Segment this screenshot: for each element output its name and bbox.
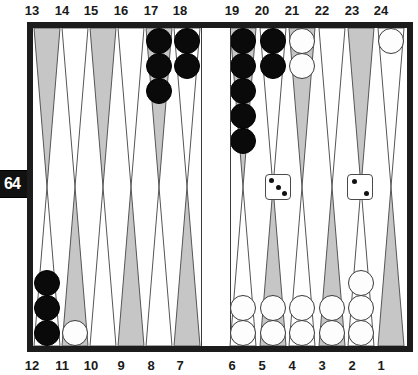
point-22[interactable] <box>318 28 346 187</box>
point-14[interactable] <box>61 28 89 187</box>
point-8[interactable] <box>145 187 173 346</box>
checker-black-point-17[interactable] <box>146 28 172 54</box>
die-pip <box>282 191 287 196</box>
point-label-22: 22 <box>310 3 334 18</box>
checker-black-point-19[interactable] <box>230 53 256 79</box>
checker-black-point-19[interactable] <box>230 103 256 129</box>
point-label-10: 10 <box>79 358 103 373</box>
point-label-15: 15 <box>79 3 103 18</box>
checker-white-point-6[interactable] <box>230 295 256 321</box>
quadrant-top-right <box>229 28 407 187</box>
checker-white-point-21[interactable] <box>289 28 315 54</box>
quadrant-bottom-left <box>33 187 201 346</box>
board-surface <box>33 28 407 346</box>
quadrant-top-left <box>33 28 201 187</box>
backgammon-screenshot: 64 1314151617181920212223241211109876543… <box>0 0 418 375</box>
point-23[interactable] <box>347 28 375 187</box>
point-9[interactable] <box>117 187 145 346</box>
die-pip <box>364 191 369 196</box>
checker-white-point-3[interactable] <box>319 295 345 321</box>
checker-black-point-20[interactable] <box>260 53 286 79</box>
checker-black-point-19[interactable] <box>230 128 256 154</box>
checker-white-point-21[interactable] <box>289 53 315 79</box>
point-15[interactable] <box>89 28 117 187</box>
doubling-cube-value: 64 <box>4 176 20 192</box>
point-label-16: 16 <box>109 3 133 18</box>
checker-black-point-20[interactable] <box>260 28 286 54</box>
die-pip <box>269 178 274 183</box>
point-label-7: 7 <box>168 358 192 373</box>
doubling-cube[interactable]: 64 <box>0 170 28 198</box>
point-label-19: 19 <box>220 3 244 18</box>
checker-black-point-19[interactable] <box>230 28 256 54</box>
checker-black-point-12[interactable] <box>34 320 60 346</box>
die-left[interactable] <box>265 174 291 200</box>
point-label-21: 21 <box>280 3 304 18</box>
point-label-1: 1 <box>369 358 393 373</box>
point-label-6: 6 <box>220 358 244 373</box>
die-pip <box>276 185 281 190</box>
center-bar[interactable] <box>201 28 231 346</box>
point-10[interactable] <box>89 187 117 346</box>
checker-black-point-18[interactable] <box>174 53 200 79</box>
point-label-3: 3 <box>310 358 334 373</box>
point-label-23: 23 <box>340 3 364 18</box>
point-label-2: 2 <box>340 358 364 373</box>
checker-white-point-5[interactable] <box>260 295 286 321</box>
checker-white-point-11[interactable] <box>62 320 88 346</box>
checker-white-point-5[interactable] <box>260 320 286 346</box>
quadrant-bottom-right <box>229 187 407 346</box>
point-label-24: 24 <box>369 3 393 18</box>
point-label-12: 12 <box>20 358 44 373</box>
checker-white-point-4[interactable] <box>289 295 315 321</box>
point-13[interactable] <box>33 28 61 187</box>
point-label-20: 20 <box>250 3 274 18</box>
checker-black-point-12[interactable] <box>34 295 60 321</box>
point-label-9: 9 <box>109 358 133 373</box>
checker-white-point-6[interactable] <box>230 320 256 346</box>
checker-white-point-3[interactable] <box>319 320 345 346</box>
die-right[interactable] <box>347 174 373 200</box>
point-label-18: 18 <box>168 3 192 18</box>
point-label-13: 13 <box>20 3 44 18</box>
checker-black-point-19[interactable] <box>230 78 256 104</box>
point-16[interactable] <box>117 28 145 187</box>
checker-black-point-12[interactable] <box>34 270 60 296</box>
checker-white-point-4[interactable] <box>289 320 315 346</box>
checker-black-point-17[interactable] <box>146 53 172 79</box>
point-label-11: 11 <box>50 358 74 373</box>
checker-white-point-24[interactable] <box>378 28 404 54</box>
point-7[interactable] <box>173 187 201 346</box>
point-label-5: 5 <box>250 358 274 373</box>
checker-black-point-18[interactable] <box>174 28 200 54</box>
point-1[interactable] <box>377 187 405 346</box>
checker-black-point-17[interactable] <box>146 78 172 104</box>
board-frame <box>27 22 413 352</box>
point-label-17: 17 <box>139 3 163 18</box>
point-label-14: 14 <box>50 3 74 18</box>
die-pip <box>352 179 357 184</box>
point-label-4: 4 <box>280 358 304 373</box>
point-label-8: 8 <box>139 358 163 373</box>
